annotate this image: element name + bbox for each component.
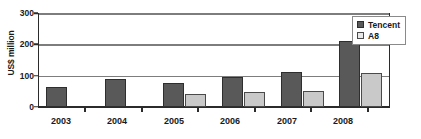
x-axis-label-2006: 2006 xyxy=(220,116,240,126)
y-tick-label-300: 300 xyxy=(0,8,34,18)
legend-item-a8[interactable]: A8 xyxy=(357,30,400,41)
legend-label-a8: A8 xyxy=(368,31,379,41)
y-tick-label-200: 200 xyxy=(0,39,34,49)
bar-tencent-2006 xyxy=(222,77,243,107)
y-tick-label-0: 0 xyxy=(0,102,34,112)
legend-item-tencent[interactable]: Tencent xyxy=(357,19,400,30)
x-tick-mark-5 xyxy=(310,107,312,112)
legend-label-tencent: Tencent xyxy=(368,20,400,30)
x-tick-mark-1 xyxy=(84,107,86,112)
light-gray-square-icon xyxy=(357,32,364,39)
x-tick-mark-2 xyxy=(141,107,143,112)
bars-layer xyxy=(38,13,390,107)
y-axis-ticks: 300 200 100 0 xyxy=(0,0,34,139)
bar-a8-2007 xyxy=(303,91,324,107)
x-tick-mark-3 xyxy=(197,107,199,112)
x-axis-label-2005: 2005 xyxy=(164,116,184,126)
x-axis-label-2003: 2003 xyxy=(51,116,71,126)
x-axis-label-2008: 2008 xyxy=(333,116,353,126)
bar-tencent-2008 xyxy=(339,41,360,107)
x-axis-label-2007: 2007 xyxy=(277,116,297,126)
x-tick-mark-4 xyxy=(254,107,256,112)
bar-tencent-2003 xyxy=(46,87,67,107)
x-axis-label-2004: 2004 xyxy=(107,116,127,126)
chart-legend: Tencent A8 xyxy=(352,16,406,45)
bar-tencent-2007 xyxy=(281,72,302,107)
bar-tencent-2005 xyxy=(163,83,184,107)
bar-chart: US$ million 300 200 100 0 2003 2004 2005… xyxy=(0,0,421,139)
bar-a8-2005 xyxy=(185,94,206,107)
dark-gray-square-icon xyxy=(357,21,364,28)
x-tick-mark-6 xyxy=(367,107,369,112)
y-tick-label-100: 100 xyxy=(0,71,34,81)
bar-tencent-2004 xyxy=(105,79,126,107)
bar-a8-2006 xyxy=(244,92,265,107)
bar-a8-2008 xyxy=(361,73,382,107)
